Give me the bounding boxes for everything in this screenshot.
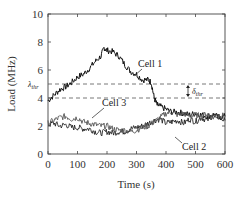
x-tick-label: 100 bbox=[69, 158, 86, 170]
y-axis-label: Load (MHz) bbox=[5, 56, 18, 112]
lambda-thr-label: λthr bbox=[27, 80, 39, 90]
y-tick-label: 8 bbox=[38, 36, 44, 48]
x-tick-label: 400 bbox=[158, 158, 175, 170]
x-tick-label: 200 bbox=[99, 158, 116, 170]
x-tick-label: 600 bbox=[217, 158, 234, 170]
delta-thr-label: δthr bbox=[192, 87, 203, 97]
cell3-label: Cell 3 bbox=[102, 97, 126, 108]
y-tick-label: 2 bbox=[38, 120, 44, 132]
y-tick-label: 6 bbox=[38, 64, 44, 76]
cell3-annotation: Cell 3 bbox=[92, 97, 126, 118]
cell2-label: Cell 2 bbox=[182, 141, 206, 152]
load-chart: 01002003004005006000246810 Time (s) Load… bbox=[0, 0, 247, 199]
cell2-annotation: Cell 2 bbox=[175, 137, 206, 152]
cell1-label: Cell 1 bbox=[138, 58, 162, 69]
delta-thr-marker: δthr bbox=[186, 85, 203, 97]
y-tick-label: 0 bbox=[38, 148, 44, 160]
y-tick-label: 4 bbox=[38, 92, 44, 104]
y-tick-label: 10 bbox=[32, 8, 44, 20]
x-tick-label: 0 bbox=[45, 158, 51, 170]
x-tick-label: 300 bbox=[128, 158, 145, 170]
cell1-annotation: Cell 1 bbox=[134, 58, 162, 76]
x-axis-label: Time (s) bbox=[117, 178, 155, 191]
x-tick-label: 500 bbox=[187, 158, 204, 170]
